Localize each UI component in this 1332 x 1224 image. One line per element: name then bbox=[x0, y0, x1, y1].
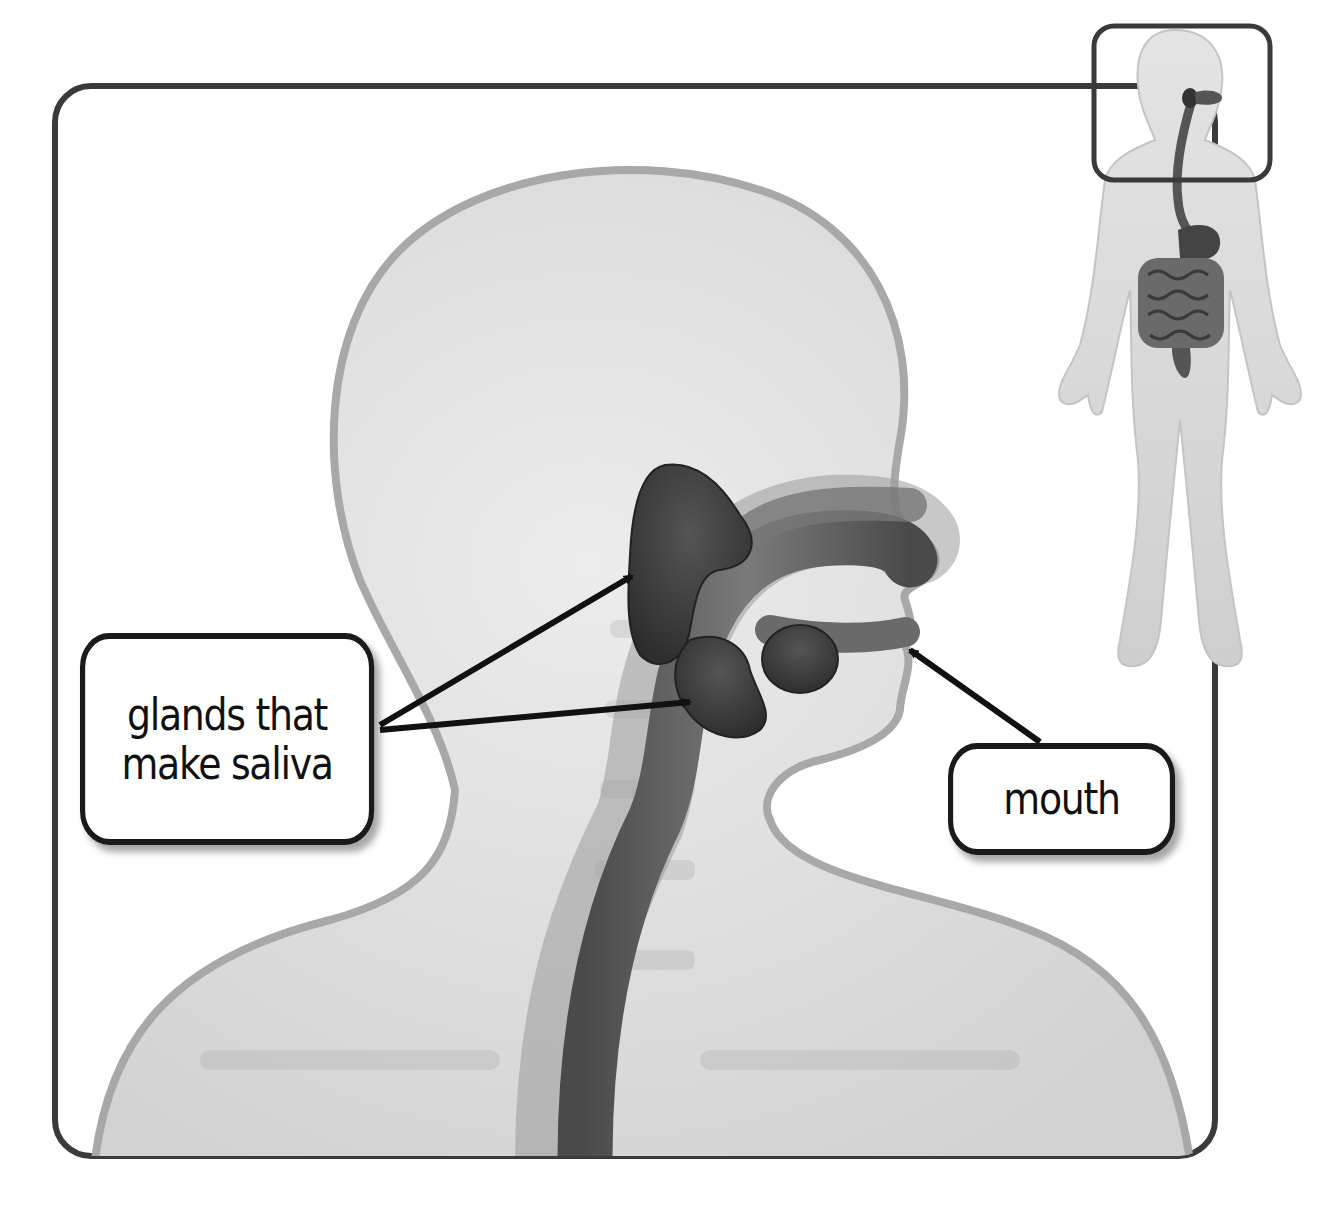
label-glands-that-make-saliva: glands that make saliva bbox=[80, 633, 374, 845]
diagram-canvas bbox=[0, 0, 1332, 1224]
label-mouth-text: mouth bbox=[1003, 774, 1119, 823]
sublingual-gland bbox=[762, 625, 838, 693]
label-glands-text: glands that make saliva bbox=[121, 690, 332, 789]
label-mouth: mouth bbox=[948, 743, 1175, 855]
